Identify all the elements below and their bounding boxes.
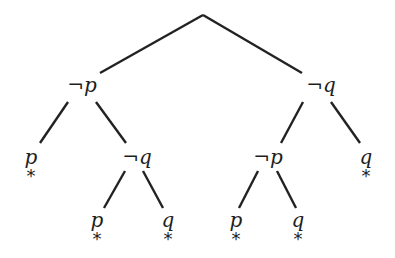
negation-symbol: ¬ — [253, 145, 270, 169]
tree-node-not-p: ¬p — [253, 147, 283, 167]
variable-p: p — [270, 145, 283, 169]
tree-edge — [100, 15, 203, 73]
tree-edge — [143, 171, 163, 208]
tree-node-q: q — [162, 210, 175, 230]
tree-edge — [104, 171, 125, 208]
closed-branch-asterisk-icon: * — [294, 230, 303, 248]
closed-branch-asterisk-icon: * — [164, 230, 173, 248]
tree-node-p: p — [91, 210, 104, 230]
tree-edge — [203, 15, 302, 73]
closed-branch-asterisk-icon: * — [232, 230, 241, 248]
tree-node-not-p: ¬p — [67, 75, 97, 95]
variable-p: p — [84, 73, 97, 97]
negation-symbol: ¬ — [306, 73, 323, 97]
tree-edge — [331, 102, 360, 143]
tree-node-p: p — [230, 210, 243, 230]
tree-edge — [239, 171, 258, 208]
negation-symbol: ¬ — [122, 145, 139, 169]
tree-edge — [281, 102, 303, 143]
tree-node-not-q: ¬q — [306, 75, 336, 95]
tree-edge — [40, 102, 68, 143]
closed-branch-asterisk-icon: * — [27, 167, 36, 185]
closed-branch-asterisk-icon: * — [362, 167, 371, 185]
tree-node-not-q: ¬q — [122, 147, 152, 167]
variable-q: q — [323, 73, 336, 97]
negation-symbol: ¬ — [67, 73, 84, 97]
tree-edges — [0, 0, 395, 258]
tree-edge — [96, 102, 126, 143]
tree-node-q: q — [292, 210, 305, 230]
tree-node-p: p — [25, 147, 38, 167]
tree-edge — [277, 171, 296, 208]
tree-node-q: q — [360, 147, 373, 167]
variable-q: q — [139, 145, 152, 169]
closed-branch-asterisk-icon: * — [93, 230, 102, 248]
